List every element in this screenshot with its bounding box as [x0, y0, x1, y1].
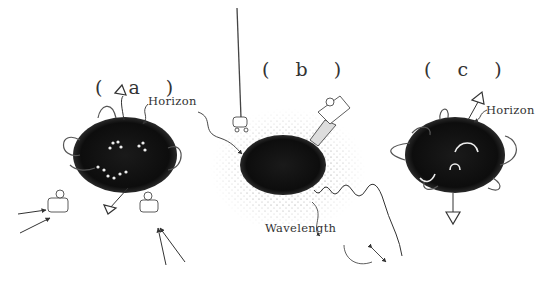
panel-a-artwork [18, 85, 185, 265]
black-hole-b [240, 135, 326, 195]
panel-label-c: ( c ) [424, 58, 512, 80]
black-hole-a [73, 117, 177, 193]
black-hole-figure: ( a ) ( b ) ( c ) Horizon Wavelength Hor… [0, 0, 546, 282]
figure-artwork [0, 0, 546, 282]
panel-label-b: ( b ) [262, 58, 351, 80]
wavelength-label: Wavelength [265, 221, 336, 235]
horizon-label-a: Horizon [148, 94, 197, 108]
black-hole-c [405, 117, 505, 193]
horizon-label-c: Horizon [486, 103, 535, 117]
